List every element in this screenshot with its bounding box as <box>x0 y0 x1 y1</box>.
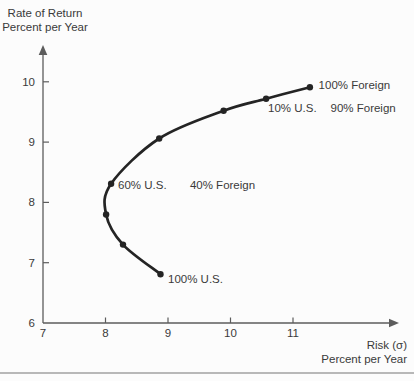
bottom-divider-line <box>0 372 414 374</box>
data-point-60-u-s-40-foreign <box>108 181 114 187</box>
data-point-2 <box>103 211 109 217</box>
x-axis-title-line1: Risk (σ) <box>321 338 407 352</box>
x-tick-label-9: 9 <box>165 327 171 339</box>
portfolio-risk-return-figure: Rate of Return Percent per Year 78910116… <box>0 0 414 381</box>
y-tick-label-7: 7 <box>29 257 35 269</box>
annotation-10-u-s: 10% U.S. <box>268 102 317 114</box>
y-axis-arrowhead-icon <box>39 45 48 55</box>
annotation-100-u-s: 100% U.S. <box>168 273 223 285</box>
y-tick-label-8: 8 <box>29 196 35 208</box>
risk-return-chart: 7891011678910100% Foreign10% U.S.90% For… <box>0 0 414 381</box>
y-tick-label-9: 9 <box>29 136 35 148</box>
x-tick-label-8: 8 <box>102 327 108 339</box>
annotation-90-foreign: 90% Foreign <box>331 102 396 114</box>
data-point-10-u-s-90-foreign <box>263 96 269 102</box>
x-tick-label-11: 11 <box>287 327 299 339</box>
annotation-60-u-s: 60% U.S. <box>118 179 167 191</box>
x-axis-title: Risk (σ) Percent per Year <box>321 338 407 366</box>
annotation-40-foreign: 40% Foreign <box>190 179 255 191</box>
y-tick-label-6: 6 <box>29 317 35 329</box>
data-point-100-u-s <box>157 271 163 277</box>
x-axis-arrowhead-icon <box>389 319 399 328</box>
data-point-100-foreign <box>307 84 313 90</box>
annotation-100-foreign: 100% Foreign <box>319 79 391 91</box>
x-tick-label-7: 7 <box>40 327 46 339</box>
data-point-4 <box>156 135 162 141</box>
x-axis-title-line2: Percent per Year <box>321 352 407 366</box>
data-point-5 <box>220 108 226 114</box>
y-tick-label-10: 10 <box>22 76 35 88</box>
x-tick-label-10: 10 <box>224 327 237 339</box>
data-point-1 <box>120 241 126 247</box>
